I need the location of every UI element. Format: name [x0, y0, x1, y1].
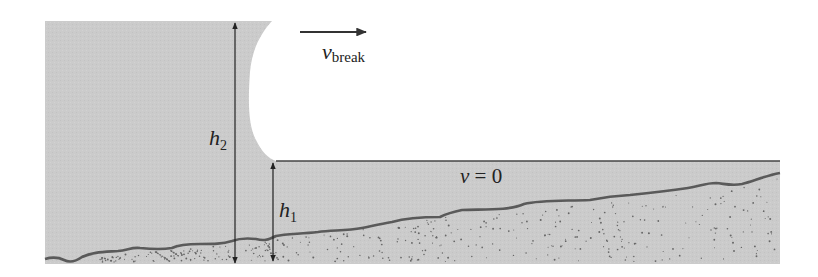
- sediment-dot: [621, 241, 622, 242]
- sediment-dot: [251, 250, 252, 251]
- sediment-dot: [496, 217, 498, 219]
- sediment-dot: [609, 255, 611, 257]
- sediment-dot: [481, 247, 483, 249]
- sediment-dot: [542, 214, 543, 215]
- sediment-dot: [249, 244, 250, 245]
- sediment-dot: [164, 259, 165, 260]
- sediment-dot: [411, 258, 413, 260]
- sediment-dot: [151, 253, 152, 254]
- sediment-dot: [549, 234, 551, 236]
- sediment-dot: [620, 236, 621, 237]
- sediment-dot: [732, 242, 734, 244]
- sediment-dot: [436, 237, 438, 239]
- sediment-dot: [229, 256, 231, 258]
- sediment-dot: [548, 234, 549, 235]
- sediment-dot: [578, 260, 579, 261]
- sediment-dot: [427, 222, 428, 223]
- sediment-dot: [453, 240, 455, 242]
- sediment-dot: [175, 253, 177, 255]
- sediment-dot: [116, 257, 117, 258]
- sediment-dot: [382, 258, 384, 260]
- sediment-dot: [672, 248, 674, 250]
- sediment-dot: [264, 244, 265, 245]
- sediment-dot: [565, 239, 566, 240]
- sediment-dot: [486, 257, 487, 258]
- sediment-dot: [470, 229, 471, 230]
- sediment-dot: [181, 253, 182, 254]
- sediment-dot: [353, 246, 354, 247]
- sediment-dot: [162, 256, 163, 257]
- sediment-dot: [730, 235, 732, 237]
- sediment-dot: [187, 252, 189, 254]
- sediment-dot: [308, 237, 309, 238]
- sediment-dot: [454, 260, 455, 261]
- sediment-dot: [655, 260, 657, 262]
- sediment-dot: [413, 228, 414, 229]
- sediment-dot: [340, 251, 342, 253]
- sediment-dot: [661, 234, 663, 236]
- sediment-dot: [412, 256, 413, 257]
- sediment-dot: [330, 236, 332, 238]
- sediment-dot: [565, 240, 567, 242]
- sediment-dot: [522, 213, 523, 214]
- sediment-dot: [273, 253, 274, 254]
- sediment-dot: [203, 257, 204, 258]
- sediment-dot: [633, 261, 634, 262]
- sediment-dot: [754, 245, 756, 247]
- sediment-dot: [228, 255, 229, 256]
- sediment-dot: [170, 255, 172, 257]
- sediment-dot: [743, 209, 745, 211]
- sediment-dot: [251, 260, 252, 261]
- sediment-dot: [439, 245, 440, 246]
- sediment-dot: [723, 258, 724, 259]
- sediment-dot: [617, 222, 618, 223]
- sediment-dot: [146, 256, 147, 257]
- sediment-dot: [135, 260, 136, 261]
- sediment-dot: [486, 226, 487, 227]
- sediment-dot: [516, 214, 517, 215]
- sediment-dot: [662, 206, 663, 207]
- sediment-dot: [337, 238, 338, 239]
- velocity-break-label: vbreak: [322, 39, 366, 65]
- sediment-dot: [707, 209, 708, 210]
- sediment-dot: [252, 248, 253, 249]
- sediment-dot: [727, 228, 729, 230]
- sediment-dot: [729, 216, 731, 218]
- sediment-dot: [189, 250, 191, 252]
- sediment-dot: [645, 205, 646, 206]
- sediment-dot: [628, 242, 629, 243]
- sediment-dot: [431, 231, 432, 232]
- sediment-dot: [599, 218, 601, 220]
- sediment-dot: [634, 243, 636, 245]
- sediment-dot: [105, 260, 106, 261]
- sediment-dot: [445, 220, 447, 222]
- sediment-dot: [155, 251, 157, 253]
- sediment-dot: [679, 255, 681, 257]
- sediment-dot: [148, 254, 149, 255]
- sediment-dot: [769, 218, 771, 220]
- sediment-dot: [445, 235, 447, 237]
- sediment-dot: [513, 229, 514, 230]
- sediment-dot: [492, 228, 494, 230]
- sediment-dot: [612, 206, 613, 207]
- sediment-dot: [445, 261, 446, 262]
- sediment-dot: [568, 212, 570, 214]
- sediment-dot: [559, 221, 561, 223]
- sediment-dot: [288, 260, 290, 262]
- sediment-dot: [608, 251, 610, 253]
- sediment-dot: [212, 246, 214, 248]
- sediment-dot: [536, 258, 537, 259]
- sediment-dot: [417, 259, 418, 260]
- sediment-dot: [297, 254, 299, 256]
- sediment-dot: [576, 236, 578, 238]
- sediment-dot: [621, 246, 623, 248]
- sediment-dot: [731, 237, 732, 238]
- sediment-dot: [527, 228, 528, 229]
- sediment-dot: [257, 256, 258, 257]
- sediment-dot: [397, 238, 399, 240]
- sediment-dot: [558, 258, 559, 259]
- sediment-dot: [722, 196, 723, 197]
- sediment-dot: [776, 178, 777, 179]
- sediment-dot: [646, 246, 647, 247]
- sediment-dot: [765, 218, 766, 219]
